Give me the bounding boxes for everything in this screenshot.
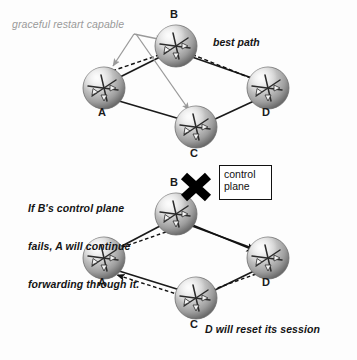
control-plane-label-box: control plane	[219, 165, 272, 200]
router-node-a-top	[83, 67, 125, 109]
node-label-c-bottom: C	[190, 318, 198, 331]
router-node-d-bottom	[247, 237, 289, 279]
router-node-b-bottom	[155, 193, 197, 235]
node-label-d-bottom: D	[262, 276, 270, 289]
control-plane-failure-x-icon	[184, 176, 208, 198]
node-label-d-top: D	[262, 106, 270, 119]
control-plane-line-2: plane	[224, 180, 267, 192]
node-label-c-top: C	[190, 147, 198, 160]
b-failure-note-line-3: forwarding through it.	[28, 278, 139, 291]
diagram-canvas: A B C D graceful restart capable best pa…	[0, 0, 357, 360]
graceful-restart-capable-note: graceful restart capable	[12, 18, 124, 31]
node-label-b-top: B	[170, 8, 178, 21]
router-node-c-top	[175, 106, 217, 148]
control-plane-line-1: control	[224, 168, 267, 180]
router-node-b-top	[155, 25, 197, 67]
d-reset-note: D will reset its session with B, and beg…	[205, 297, 320, 360]
best-path-note: best path	[213, 36, 260, 49]
node-label-b-bottom: B	[170, 176, 178, 189]
d-reset-note-line-1: D will reset its session	[205, 323, 320, 336]
b-failure-note-line-1: If B's control plane	[28, 202, 139, 215]
b-failure-note: If B's control plane fails, A will conti…	[28, 176, 139, 317]
router-node-d-top	[247, 67, 289, 109]
node-label-a-top: A	[98, 106, 106, 119]
b-failure-note-line-2: fails, A will continue	[28, 240, 139, 253]
